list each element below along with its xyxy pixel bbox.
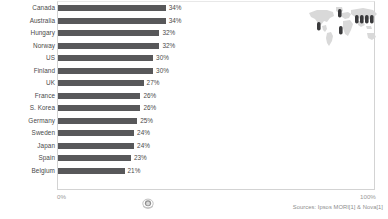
bar: [58, 118, 137, 124]
bar: [58, 5, 166, 11]
category-label: Hungary: [30, 27, 55, 40]
bar-row: US30%: [0, 52, 388, 65]
bar-row: France26%: [0, 90, 388, 103]
bar: [58, 68, 153, 74]
category-label: UK: [46, 77, 55, 90]
axis-tick-min: 0%: [57, 193, 66, 200]
bar-value-label: 34%: [166, 2, 182, 15]
bar-value-label: 25%: [137, 115, 153, 128]
bar: [58, 155, 131, 161]
bar-value-label: 24%: [134, 127, 150, 140]
category-label: Japan: [37, 140, 55, 153]
bar-row: Belgium21%: [0, 165, 388, 178]
bar-track: 26%: [58, 90, 375, 103]
bar-row: Japan24%: [0, 140, 388, 153]
category-label: Belgium: [32, 165, 55, 178]
bar: [58, 130, 134, 136]
category-label: Australia: [30, 15, 55, 28]
chart-page: Canada34%Australia34%Hungary32%Norway32%…: [0, 0, 388, 219]
bar: [58, 18, 166, 24]
bar-value-label: 21%: [125, 165, 141, 178]
bar-value-label: 34%: [166, 15, 182, 28]
bar: [58, 168, 125, 174]
world-map-inset: [303, 3, 381, 49]
bar: [58, 93, 140, 99]
bar-row: UK27%: [0, 77, 388, 90]
bar: [58, 105, 140, 111]
bar-track: 25%: [58, 115, 375, 128]
bar-row: Spain23%: [0, 152, 388, 165]
bar-value-label: 26%: [140, 102, 156, 115]
bar: [58, 55, 153, 61]
bar-row: Germany25%: [0, 115, 388, 128]
bar: [58, 30, 159, 36]
bar: [58, 43, 159, 49]
bar-value-label: 23%: [131, 152, 147, 165]
bar-row: S. Korea26%: [0, 102, 388, 115]
bar: [58, 143, 134, 149]
bar-value-label: 32%: [159, 40, 175, 53]
category-label: Norway: [33, 40, 55, 53]
bar-value-label: 26%: [140, 90, 156, 103]
bar-track: 21%: [58, 165, 375, 178]
bar-track: 30%: [58, 65, 375, 78]
bar-value-label: 27%: [144, 77, 160, 90]
bar-track: 27%: [58, 77, 375, 90]
bar-track: 26%: [58, 102, 375, 115]
category-label: Spain: [38, 152, 55, 165]
category-label: France: [35, 90, 55, 103]
bar-row: Finland30%: [0, 65, 388, 78]
category-label: US: [46, 52, 55, 65]
source-note: Sources: Ipsos MORI[1] & Nova[1]: [293, 204, 383, 210]
category-label: Finland: [34, 65, 55, 78]
bar-track: 30%: [58, 52, 375, 65]
bar-value-label: 24%: [134, 140, 150, 153]
category-label: Canada: [32, 2, 55, 15]
category-label: Germany: [28, 115, 55, 128]
bar-row: Sweden24%: [0, 127, 388, 140]
category-label: S. Korea: [30, 102, 55, 115]
circular-emblem-icon: [141, 195, 155, 206]
bar-track: 24%: [58, 140, 375, 153]
bar-value-label: 30%: [153, 65, 169, 78]
bar-track: 24%: [58, 127, 375, 140]
bar-value-label: 30%: [153, 52, 169, 65]
bar-track: 23%: [58, 152, 375, 165]
category-label: Sweden: [32, 127, 55, 140]
axis-tick-max: 100%: [360, 193, 376, 200]
bar-value-label: 32%: [159, 27, 175, 40]
bar: [58, 80, 144, 86]
